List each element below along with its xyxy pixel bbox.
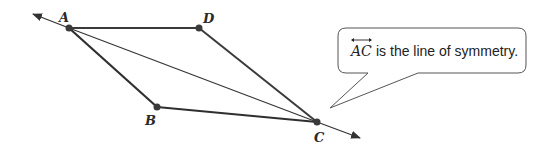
- segment-ab: [69, 28, 157, 107]
- line-ac: [33, 14, 360, 138]
- point-b: [154, 104, 161, 111]
- label-d: D: [202, 11, 215, 26]
- point-d: [196, 25, 203, 32]
- geometry-diagram: A D B C AC is the line of symmetry.: [0, 0, 551, 154]
- label-a: A: [57, 10, 69, 25]
- callout-line-name: AC: [349, 43, 372, 59]
- label-c: C: [314, 130, 325, 145]
- segment-dc: [199, 28, 317, 122]
- point-c: [314, 119, 321, 126]
- label-b: B: [144, 113, 156, 128]
- callout-bubble: AC is the line of symmetry.: [330, 28, 526, 108]
- callout-text: is the line of symmetry.: [376, 43, 518, 59]
- segment-bc: [157, 107, 317, 122]
- point-a: [66, 25, 73, 32]
